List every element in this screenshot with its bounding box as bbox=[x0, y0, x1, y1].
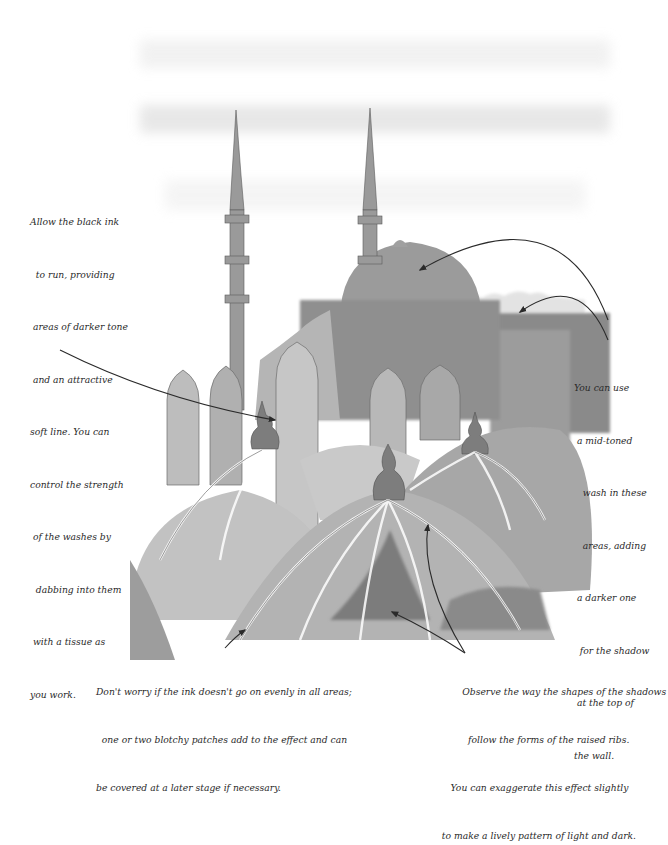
note-line: one or two blotchy patches add to the ef… bbox=[96, 732, 352, 748]
note-line: control the strength bbox=[30, 476, 128, 494]
note-line: soft line. You can bbox=[30, 423, 128, 441]
note-line: areas, adding bbox=[574, 537, 649, 555]
note-line: be covered at a later stage if necessary… bbox=[96, 780, 352, 796]
note-line: Allow the black ink bbox=[30, 213, 128, 231]
note-line: with a tissue as bbox=[30, 633, 128, 651]
note-line: areas of darker tone bbox=[30, 318, 128, 336]
note-line: You can exaggerate this effect slightly bbox=[436, 780, 666, 796]
note-line: to make a lively pattern of light and da… bbox=[436, 828, 666, 844]
note-line: Don't worry if the ink doesn't go on eve… bbox=[96, 684, 352, 700]
note-line: follow the forms of the raised ribs. bbox=[436, 732, 666, 748]
note-line: a darker one bbox=[574, 589, 649, 607]
note-line: You can use bbox=[574, 379, 649, 397]
note-line: of the washes by bbox=[30, 528, 128, 546]
note-line: a mid-toned bbox=[574, 432, 649, 450]
note-line: to run, providing bbox=[30, 266, 128, 284]
annotation-bottom-left: Don't worry if the ink doesn't go on eve… bbox=[96, 652, 352, 812]
minaret-left bbox=[225, 110, 249, 410]
note-line: dabbing into them bbox=[30, 581, 128, 599]
annotation-bottom-right: Observe the way the shapes of the shadow… bbox=[436, 652, 666, 845]
annotation-left: Allow the black ink to run, providing ar… bbox=[30, 178, 128, 721]
note-line: wash in these bbox=[574, 484, 649, 502]
note-line: Observe the way the shapes of the shadow… bbox=[436, 684, 666, 700]
note-line: and an attractive bbox=[30, 371, 128, 389]
